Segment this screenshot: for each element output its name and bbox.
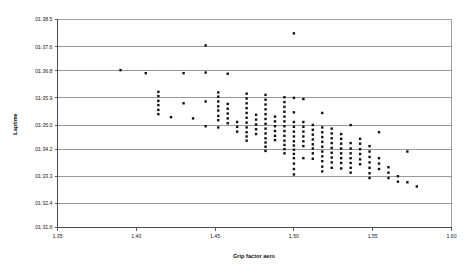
data-point	[368, 161, 370, 163]
plot-area-border	[58, 20, 452, 228]
data-point	[378, 168, 380, 170]
data-point	[321, 150, 323, 152]
data-point	[255, 118, 257, 120]
data-point	[293, 97, 295, 99]
data-point	[349, 142, 351, 144]
data-point	[312, 124, 314, 126]
data-point	[227, 117, 229, 119]
data-point	[264, 137, 266, 139]
y-tick-label: 01:36.8	[35, 68, 52, 74]
data-point	[312, 147, 314, 149]
data-point	[227, 103, 229, 105]
data-point	[340, 152, 342, 154]
data-point	[331, 167, 333, 169]
y-tick-label: 01:35.9	[35, 95, 52, 101]
data-point	[349, 147, 351, 149]
data-point	[359, 163, 361, 165]
data-point	[274, 135, 276, 137]
data-point	[312, 143, 314, 145]
data-point	[255, 114, 257, 116]
data-point	[227, 112, 229, 114]
data-point	[227, 108, 229, 110]
data-point	[119, 69, 121, 71]
data-point	[321, 165, 323, 167]
data-point	[321, 160, 323, 162]
data-point	[293, 173, 295, 175]
y-tick-label: 01:35.0	[35, 122, 52, 128]
y-tick-label: 01:33.3	[35, 173, 52, 179]
data-point	[293, 111, 295, 113]
data-point	[264, 127, 266, 129]
data-point	[378, 162, 380, 164]
data-point	[368, 156, 370, 158]
data-point	[157, 104, 159, 106]
data-point	[274, 120, 276, 122]
x-tick-label: 1.40	[131, 233, 141, 239]
data-point	[293, 140, 295, 142]
data-point	[340, 167, 342, 169]
data-point	[340, 157, 342, 159]
data-point	[416, 185, 418, 187]
data-point	[331, 127, 333, 129]
data-point	[368, 177, 370, 179]
data-point	[340, 162, 342, 164]
data-point	[321, 155, 323, 157]
data-point	[227, 73, 229, 75]
data-point	[321, 126, 323, 128]
data-point	[217, 91, 219, 93]
data-point	[283, 139, 285, 141]
x-tick-label: 1.55	[368, 233, 378, 239]
data-point	[293, 121, 295, 123]
data-point	[283, 106, 285, 108]
data-point	[378, 157, 380, 159]
y-tick-label: 01:32.4	[35, 200, 52, 206]
chart-container: 01:31.601:32.401:33.301:34.201:35.001:35…	[0, 0, 471, 268]
data-point	[264, 132, 266, 134]
data-point	[349, 162, 351, 164]
data-point	[217, 126, 219, 128]
data-point	[274, 125, 276, 127]
y-tick-label: 01:37.6	[35, 44, 52, 50]
data-point	[312, 133, 314, 135]
data-point	[331, 147, 333, 149]
data-point	[182, 102, 184, 104]
data-point	[331, 152, 333, 154]
data-point	[302, 145, 304, 147]
data-point	[293, 153, 295, 155]
data-point	[264, 141, 266, 143]
data-point	[321, 141, 323, 143]
data-point	[283, 148, 285, 150]
data-point	[204, 100, 206, 102]
data-point	[245, 92, 247, 94]
data-point	[340, 143, 342, 145]
data-point	[283, 96, 285, 98]
data-point	[236, 121, 238, 123]
data-point	[321, 136, 323, 138]
data-point	[283, 152, 285, 154]
data-point	[217, 95, 219, 97]
data-point	[255, 128, 257, 130]
data-point	[321, 146, 323, 148]
data-point	[264, 108, 266, 110]
x-tick-label: 1.35	[52, 233, 62, 239]
data-point	[321, 170, 323, 172]
data-point	[157, 91, 159, 93]
data-point	[368, 145, 370, 147]
data-point	[331, 132, 333, 134]
data-point	[283, 120, 285, 122]
data-point	[331, 161, 333, 163]
data-point	[359, 153, 361, 155]
data-point	[340, 133, 342, 135]
scatter-chart: 01:31.601:32.401:33.301:34.201:35.001:35…	[0, 0, 471, 268]
data-point	[217, 115, 219, 117]
data-point	[204, 71, 206, 73]
data-point	[217, 109, 219, 111]
data-point	[245, 131, 247, 133]
data-point	[264, 113, 266, 115]
x-tick-label: 1.45	[210, 233, 220, 239]
data-point	[302, 140, 304, 142]
data-point	[217, 100, 219, 102]
data-point	[312, 138, 314, 140]
data-point	[349, 167, 351, 169]
x-tick-label: 1.50	[289, 233, 299, 239]
